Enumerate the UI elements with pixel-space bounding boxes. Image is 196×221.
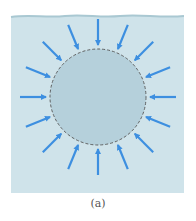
figure-caption: (a) [0,197,196,210]
submerged-sphere [50,49,146,145]
water-surface [11,15,184,17]
pressure-diagram [0,0,196,221]
